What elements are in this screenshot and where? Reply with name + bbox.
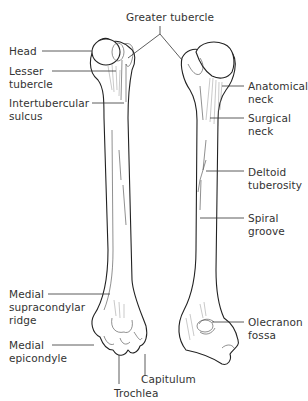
label-lesser-tubercle: Lesser tubercle (9, 65, 53, 91)
leader-greater-tubercle (128, 26, 182, 60)
humerus-diagram: Greater tubercle Head Lesser tubercle In… (0, 0, 308, 401)
label-head: Head (9, 45, 37, 58)
anterior-humerus-outline (90, 38, 146, 355)
label-greater-tubercle: Greater tubercle (126, 11, 214, 24)
label-deltoid-tuberosity: Deltoid tuberosity (248, 166, 302, 192)
label-spiral-groove: Spiral groove (248, 212, 285, 238)
posterior-humerus (179, 42, 238, 364)
anterior-head (92, 39, 120, 65)
label-medial-epicondyle: Medial epicondyle (9, 339, 67, 365)
label-surgical-neck: Surgical neck (248, 112, 291, 138)
label-trochlea: Trochlea (114, 387, 158, 400)
anterior-humerus (90, 38, 146, 355)
label-capitulum: Capitulum (141, 373, 196, 386)
label-intertubercular-sulcus: Intertubercular sulcus (9, 97, 89, 123)
label-olecranon-fossa: Olecranon fossa (248, 316, 303, 342)
label-medial-supracondylar-ridge: Medial supracondylar ridge (9, 288, 85, 327)
label-anatomical-neck: Anatomical neck (248, 80, 308, 106)
